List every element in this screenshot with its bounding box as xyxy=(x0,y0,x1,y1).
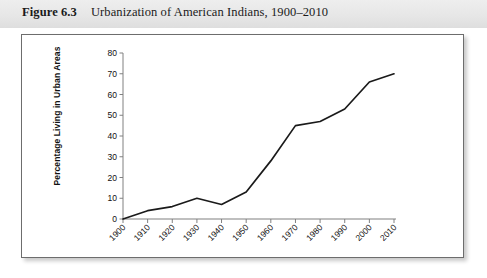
x-tick-label: 1940 xyxy=(206,222,227,243)
chart-panel: Percentage Living in Urban Areas 0102030… xyxy=(21,34,464,258)
y-tick-label: 70 xyxy=(108,69,118,79)
x-tick-label: 2010 xyxy=(378,222,399,243)
x-tick-label: 1990 xyxy=(329,222,350,243)
x-axis: 1900191019201930194019501960197019801990… xyxy=(107,219,399,243)
figure-number-label: Figure 6.3 xyxy=(22,5,77,20)
y-tick-label: 0 xyxy=(112,214,117,224)
x-tick-label: 1920 xyxy=(156,222,177,243)
series-polyline xyxy=(123,74,394,219)
figure-container: Figure 6.3 Urbanization of American Indi… xyxy=(0,0,487,278)
y-tick-label: 50 xyxy=(108,110,118,120)
figure-caption: Figure 6.3 Urbanization of American Indi… xyxy=(22,5,328,20)
x-tick-label: 1950 xyxy=(230,222,251,243)
y-tick-label: 30 xyxy=(108,152,118,162)
y-tick-label: 60 xyxy=(108,90,118,100)
x-tick-label: 1980 xyxy=(304,222,325,243)
x-tick-label: 1960 xyxy=(255,222,276,243)
x-tick-label: 1970 xyxy=(279,222,300,243)
plot-area: Percentage Living in Urban Areas 0102030… xyxy=(22,35,465,259)
y-tick-label: 40 xyxy=(108,131,118,141)
x-tick-label: 2000 xyxy=(353,222,374,243)
data-series-line xyxy=(123,74,394,219)
x-tick-label: 1900 xyxy=(107,222,128,243)
y-tick-label: 80 xyxy=(108,48,118,58)
y-tick-label: 20 xyxy=(108,173,118,183)
y-tick-label: 10 xyxy=(108,193,118,203)
x-tick-label: 1930 xyxy=(181,222,202,243)
line-chart-svg: 01020304050607080 1900191019201930194019… xyxy=(22,35,465,259)
figure-title: Urbanization of American Indians, 1900–2… xyxy=(91,5,328,20)
y-axis: 01020304050607080 xyxy=(108,48,123,224)
x-tick-label: 1910 xyxy=(132,222,153,243)
